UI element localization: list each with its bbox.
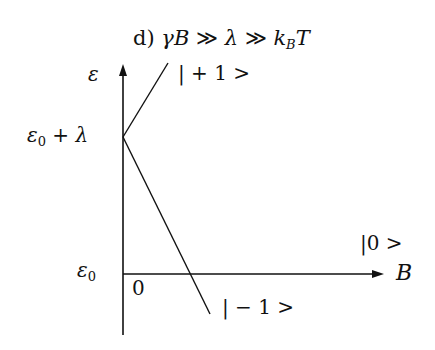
eps-sub: 0 (38, 134, 46, 149)
level-plus-one (123, 63, 168, 137)
title-k: k (273, 26, 286, 50)
title-prefix: d) (133, 26, 155, 50)
eps0-plus-lambda-label: ε0 + λ (27, 125, 88, 145)
y-axis-arrow-icon (119, 64, 127, 76)
state-minus-one-label: | − 1 > (222, 297, 294, 317)
title-gamma-b: γB (161, 26, 189, 50)
title-t: T (296, 26, 310, 50)
y-axis-label: ε (88, 64, 99, 84)
eps-sub: 0 (88, 269, 96, 284)
plus-lambda: + λ (46, 123, 88, 147)
title-op1: ≫ (196, 26, 218, 50)
title-lambda: λ (225, 26, 238, 50)
title-k-sub: B (286, 37, 296, 52)
state-zero-label: |0 > (360, 233, 403, 253)
eps0-label: ε0 (77, 260, 96, 280)
state-plus-one-label: | + 1 > (178, 63, 250, 83)
title-op2: ≫ (245, 26, 267, 50)
diagram-title: d) γB ≫ λ ≫ kBT (133, 28, 310, 49)
x-axis-arrow-icon (372, 270, 384, 278)
x-axis-label: B (396, 262, 412, 284)
eps-symbol: ε (27, 123, 38, 147)
energy-level-diagram (0, 0, 435, 350)
eps-symbol: ε (77, 258, 88, 282)
origin-label: 0 (132, 278, 145, 298)
